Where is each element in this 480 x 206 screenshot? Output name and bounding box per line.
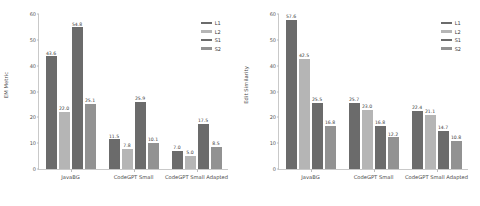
- legend-item[interactable]: L1: [201, 20, 221, 26]
- bar[interactable]: 7.8: [122, 149, 133, 169]
- bar-value-label: 42.5: [299, 53, 309, 58]
- bar[interactable]: 10.1: [148, 143, 159, 169]
- bar[interactable]: 7.0: [172, 151, 183, 169]
- bar-value-label: 5.0: [186, 150, 193, 155]
- bar-slot: 21.1: [424, 14, 437, 169]
- bar[interactable]: 54.8: [72, 27, 83, 169]
- legend-label: S2: [455, 46, 461, 52]
- bar-value-label: 23.0: [362, 104, 372, 109]
- chart-panel-right: Edit Similarity 57.642.525.516.8JavaBG25…: [240, 0, 480, 206]
- bar[interactable]: 5.0: [185, 156, 196, 169]
- legend-label: S2: [215, 46, 221, 52]
- legend-swatch-icon: [201, 47, 212, 50]
- bar[interactable]: 17.5: [198, 124, 209, 169]
- legend-item[interactable]: L2: [201, 29, 221, 35]
- y-tick-mark: [277, 65, 280, 66]
- legend-item[interactable]: S2: [441, 46, 461, 52]
- legend-item[interactable]: L1: [441, 20, 461, 26]
- legend-item[interactable]: S1: [201, 37, 221, 43]
- bar-group: 57.642.525.516.8JavaBG: [279, 14, 342, 169]
- bar-value-label: 16.8: [375, 120, 385, 125]
- bar-slot: 22.0: [58, 14, 71, 169]
- bar-value-label: 11.5: [109, 134, 119, 139]
- bar-value-label: 16.8: [325, 120, 335, 125]
- bar[interactable]: 22.4: [412, 111, 423, 169]
- bar[interactable]: 12.2: [388, 137, 399, 169]
- bar-value-label: 7.0: [173, 145, 180, 150]
- y-tick-label: 30: [30, 89, 36, 95]
- legend-label: S1: [455, 37, 461, 43]
- y-tick-mark: [37, 39, 40, 40]
- y-tick-mark: [37, 169, 40, 170]
- x-tick-label: CodeGPT Small: [114, 174, 154, 180]
- bar[interactable]: 25.9: [135, 102, 146, 169]
- bar-slot: 16.8: [324, 14, 337, 169]
- bar-value-label: 14.7: [438, 125, 448, 130]
- bar[interactable]: 14.7: [438, 131, 449, 169]
- plot-area-right: 57.642.525.516.8JavaBG25.723.016.812.2Co…: [278, 14, 468, 170]
- legend-swatch-icon: [441, 39, 452, 42]
- bar-value-label: 7.8: [123, 143, 130, 148]
- bar-value-label: 21.1: [425, 109, 435, 114]
- bar-value-label: 22.4: [412, 105, 422, 110]
- plot-area-left: 43.622.054.825.1JavaBG11.57.825.910.1Cod…: [38, 14, 228, 170]
- bar[interactable]: 8.5: [211, 147, 222, 169]
- bar-slot: 25.9: [134, 14, 147, 169]
- x-tick-mark: [71, 169, 72, 172]
- x-tick-mark: [197, 169, 198, 172]
- legend-label: S1: [215, 37, 221, 43]
- bar[interactable]: 10.8: [451, 141, 462, 169]
- bar[interactable]: 42.5: [299, 59, 310, 169]
- bar-slot: 42.5: [298, 14, 311, 169]
- legend-swatch-icon: [201, 22, 212, 25]
- legend-item[interactable]: L2: [441, 29, 461, 35]
- y-tick-mark: [37, 91, 40, 92]
- legend-label: L2: [215, 29, 221, 35]
- bar-value-label: 17.5: [198, 118, 208, 123]
- bar-value-label: 25.9: [135, 96, 145, 101]
- y-tick-mark: [277, 14, 280, 15]
- legend-label: L1: [455, 20, 461, 26]
- bar[interactable]: 23.0: [362, 110, 373, 169]
- y-tick-label: 40: [30, 63, 36, 69]
- bar[interactable]: 25.7: [349, 103, 360, 169]
- y-tick-mark: [277, 143, 280, 144]
- bar[interactable]: 22.0: [59, 112, 70, 169]
- bar[interactable]: 16.8: [325, 126, 336, 169]
- legend-swatch-icon: [201, 30, 212, 33]
- bar-slot: 7.8: [121, 14, 134, 169]
- chart-panel-left: EM Metric 43.622.054.825.1JavaBG11.57.82…: [0, 0, 240, 206]
- bar[interactable]: 11.5: [109, 139, 120, 169]
- bar-slot: 57.6: [285, 14, 298, 169]
- y-tick-mark: [37, 14, 40, 15]
- x-tick-mark: [311, 169, 312, 172]
- bar-slot: 23.0: [361, 14, 374, 169]
- bar[interactable]: 25.1: [85, 104, 96, 169]
- bar-slot: 25.7: [348, 14, 361, 169]
- bar-slot: 25.5: [311, 14, 324, 169]
- bar[interactable]: 25.5: [312, 103, 323, 169]
- y-tick-mark: [277, 91, 280, 92]
- bar[interactable]: 43.6: [46, 56, 57, 169]
- legend-swatch-icon: [441, 30, 452, 33]
- x-tick-label: JavaBG: [61, 174, 79, 180]
- x-tick-label: CodeGPT Small Adapted: [165, 174, 228, 180]
- bar[interactable]: 57.6: [286, 20, 297, 169]
- bar-slot: 12.2: [387, 14, 400, 169]
- bar[interactable]: 21.1: [425, 115, 436, 170]
- x-tick-label: CodeGPT Small: [354, 174, 394, 180]
- bar-value-label: 10.1: [148, 137, 158, 142]
- y-tick-label: 20: [30, 114, 36, 120]
- legend-item[interactable]: S1: [441, 37, 461, 43]
- y-axis-label-right-text: Edit Similarity: [243, 66, 249, 104]
- legend-label: L2: [455, 29, 461, 35]
- bar-slot: 11.5: [108, 14, 121, 169]
- legend-swatch-icon: [441, 47, 452, 50]
- y-tick-label: 30: [270, 89, 276, 95]
- y-tick-mark: [37, 143, 40, 144]
- bar-value-label: 12.2: [388, 132, 398, 137]
- x-tick-label: CodeGPT Small Adapted: [405, 174, 468, 180]
- bar[interactable]: 16.8: [375, 126, 386, 169]
- legend-item[interactable]: S2: [201, 46, 221, 52]
- bar-group: 43.622.054.825.1JavaBG: [39, 14, 102, 169]
